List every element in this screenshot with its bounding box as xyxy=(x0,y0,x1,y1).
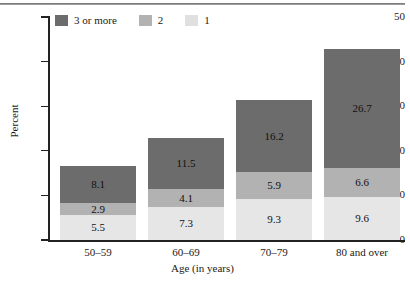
bar-segment-s3[interactable]: 11.5 xyxy=(148,138,224,189)
legend-swatch-icon xyxy=(139,15,152,26)
bar-segment-s3[interactable]: 8.1 xyxy=(60,166,136,202)
bar-3[interactable]: 16.25.99.3 xyxy=(236,100,312,240)
bar-segment-s1[interactable]: 9.6 xyxy=(324,197,400,240)
x-axis-tick-label: 50–59 xyxy=(48,246,148,258)
bar-4[interactable]: 26.76.69.6 xyxy=(324,49,400,240)
x-axis-tick-label: 70–79 xyxy=(224,246,324,258)
chart-legend: 3 or more21 xyxy=(55,14,232,26)
bar-segment-s2[interactable]: 4.1 xyxy=(148,189,224,207)
bar-segment-s1[interactable]: 9.3 xyxy=(236,199,312,240)
bar-segment-s3[interactable]: 26.7 xyxy=(324,49,400,168)
top-divider-rule xyxy=(0,3,405,5)
y-axis-tick xyxy=(41,16,48,17)
y-axis-title: Percent xyxy=(8,86,20,156)
legend-item-s1[interactable]: 1 xyxy=(185,14,210,26)
y-axis-tick-label: 50 xyxy=(371,11,405,22)
x-axis-line xyxy=(48,240,405,242)
y-axis-tick xyxy=(41,106,48,107)
legend-item-s2[interactable]: 2 xyxy=(139,14,164,26)
x-axis-title: Age (in years) xyxy=(0,262,405,274)
bar-2[interactable]: 11.54.17.3 xyxy=(148,138,224,240)
legend-item-label: 2 xyxy=(158,14,164,26)
y-axis-tick xyxy=(41,195,48,196)
y-axis-tick xyxy=(41,150,48,151)
bar-1[interactable]: 8.12.95.5 xyxy=(60,166,136,240)
legend-item-s3[interactable]: 3 or more xyxy=(55,14,117,26)
legend-item-label: 3 or more xyxy=(74,14,117,26)
bar-segment-s2[interactable]: 5.9 xyxy=(236,172,312,198)
legend-swatch-icon xyxy=(55,15,68,26)
y-axis-tick xyxy=(41,61,48,62)
x-axis-tick-label: 60–69 xyxy=(136,246,236,258)
bar-segment-s1[interactable]: 5.5 xyxy=(60,215,136,240)
legend-item-label: 1 xyxy=(204,14,210,26)
legend-swatch-icon xyxy=(185,15,198,26)
bar-segment-s2[interactable]: 2.9 xyxy=(60,203,136,216)
y-axis-tick xyxy=(41,239,48,240)
bar-segment-s3[interactable]: 16.2 xyxy=(236,100,312,172)
x-axis-tick-label: 80 and over xyxy=(312,246,410,258)
y-axis-line xyxy=(48,16,50,241)
bar-segment-s2[interactable]: 6.6 xyxy=(324,168,400,197)
bar-segment-s1[interactable]: 7.3 xyxy=(148,207,224,240)
